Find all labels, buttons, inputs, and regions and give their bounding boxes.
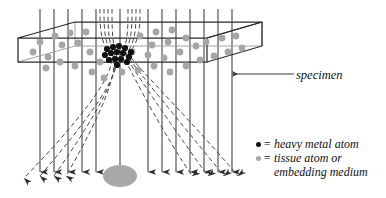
legend-row-tissue-atom: = tissue atom or [252,151,368,165]
legend-label-tissue-atom-cont: embedding medium [274,165,368,179]
legend-label-heavy-atom: heavy metal atom [274,137,359,151]
tissue-atom-dot-icon [252,151,264,165]
heavy-metal-atom-cluster [102,43,134,68]
legend-label-tissue-atom: tissue atom or [274,151,342,165]
tissue-atom-dots [30,27,246,82]
specimen-box-outline [18,22,262,62]
heavy-atom-dot-icon [252,137,264,151]
specimen-label: specimen [296,68,343,83]
legend-equals: = [264,137,274,151]
figure-canvas: specimen = heavy metal atom = tissue ato… [0,0,386,198]
projected-image-blob [103,165,137,187]
legend-row-heavy-atom: = heavy metal atom [252,137,368,151]
legend-equals: = [264,151,274,165]
legend: = heavy metal atom = tissue atom or embe… [252,137,368,179]
